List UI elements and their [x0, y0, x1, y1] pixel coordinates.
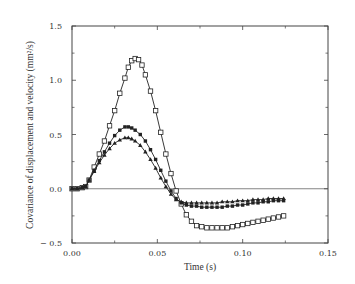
marker-filled-square [144, 139, 147, 142]
marker-open-square [107, 124, 111, 128]
marker-open-square [126, 65, 130, 69]
marker-open-square [276, 215, 280, 219]
marker-filled-square [241, 203, 244, 206]
marker-filled-square [154, 158, 157, 161]
marker-filled-square [251, 201, 254, 204]
marker-open-square [256, 219, 260, 223]
marker-filled-triangle [159, 176, 163, 180]
marker-filled-square [267, 200, 270, 203]
marker-open-square [153, 108, 157, 112]
marker-open-square [184, 213, 188, 217]
x-tick-label: 0.00 [63, 249, 81, 258]
marker-open-square [123, 76, 127, 80]
y-tick-label: − 0.5 [40, 239, 62, 248]
marker-open-square [143, 73, 147, 77]
marker-open-square [118, 91, 122, 95]
marker-filled-triangle [133, 139, 137, 143]
marker-open-square [261, 218, 265, 222]
marker-filled-square [164, 179, 167, 182]
marker-filled-square [130, 126, 133, 129]
marker-open-square [200, 225, 204, 229]
marker-open-square [97, 152, 101, 156]
marker-open-square [205, 226, 209, 230]
marker-filled-square [220, 205, 223, 208]
marker-open-square [281, 214, 285, 218]
marker-filled-square [226, 204, 229, 207]
marker-filled-square [246, 202, 249, 205]
y-tick-label: 0.5 [49, 131, 62, 140]
x-tick-label: 0.10 [234, 249, 252, 258]
marker-open-square [189, 219, 193, 223]
marker-filled-square [159, 169, 162, 172]
marker-filled-square [149, 148, 152, 151]
marker-filled-square [123, 125, 126, 128]
marker-open-square [251, 220, 255, 224]
marker-open-square [225, 226, 229, 230]
marker-open-square [240, 222, 244, 226]
y-axis-title: Covariance of displacement and velocity … [25, 41, 36, 229]
marker-open-square [194, 223, 198, 227]
series-layer [70, 56, 286, 230]
marker-open-square [102, 139, 106, 143]
marker-open-square [159, 130, 163, 134]
marker-filled-square [195, 204, 198, 207]
x-tick-label: 0.05 [148, 249, 166, 258]
marker-filled-square [113, 134, 116, 137]
marker-filled-square [256, 201, 259, 204]
marker-open-square [220, 226, 224, 230]
marker-filled-square [205, 205, 208, 208]
marker-filled-square [190, 204, 193, 207]
marker-filled-square [133, 128, 136, 131]
marker-open-square [169, 171, 173, 175]
marker-open-square [112, 108, 116, 112]
marker-open-square [164, 152, 168, 156]
chart: 0.000.050.100.15 − 0.50.00.51.01.5 Time … [0, 0, 355, 284]
marker-open-square [230, 225, 234, 229]
marker-filled-square [118, 128, 121, 131]
marker-filled-square [236, 203, 239, 206]
x-tick-label: 0.15 [319, 249, 337, 258]
marker-filled-triangle [112, 141, 116, 145]
marker-filled-square [108, 141, 111, 144]
marker-filled-square [215, 205, 218, 208]
marker-filled-square [200, 205, 203, 208]
marker-open-square [136, 57, 140, 61]
plot-frame [72, 26, 328, 243]
marker-filled-square [127, 125, 130, 128]
x-axis-title: Time (s) [184, 262, 216, 273]
marker-open-square [235, 223, 239, 227]
marker-filled-square [231, 204, 234, 207]
marker-open-square [266, 217, 270, 221]
y-tick-label: 1.0 [49, 76, 62, 85]
marker-open-square [148, 89, 152, 93]
marker-open-square [215, 226, 219, 230]
y-tick-label: 0.0 [49, 185, 62, 194]
marker-open-square [271, 216, 275, 220]
y-tick-label: 1.5 [49, 22, 62, 31]
marker-open-square [210, 226, 214, 230]
marker-filled-square [139, 133, 142, 136]
marker-open-square [140, 63, 144, 67]
marker-open-square [246, 221, 250, 225]
marker-open-square [174, 189, 178, 193]
marker-filled-square [210, 205, 213, 208]
